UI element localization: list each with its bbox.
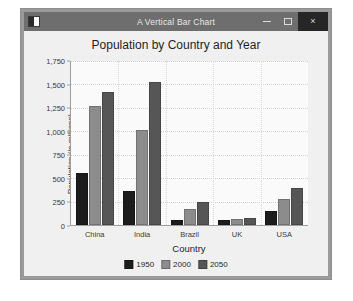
x-tick-label: USA [277, 230, 292, 239]
bar-brazil-2000 [184, 209, 196, 225]
x-tick-label: UK [232, 230, 242, 239]
y-tick-label: 0 [61, 222, 65, 231]
chart-title: Population by Country and Year [24, 38, 328, 52]
legend-item-2050[interactable]: 2050 [198, 260, 228, 269]
bar-chart: Population by Country and Year Populatio… [24, 31, 328, 276]
legend-item-1950[interactable]: 1950 [124, 260, 154, 269]
bar-usa-2050 [291, 188, 303, 225]
window-titlebar[interactable]: A Vertical Bar Chart × [24, 12, 328, 31]
y-tick-label: 750 [52, 151, 65, 160]
y-tick-label: 1,500 [46, 80, 65, 89]
y-tick-mark [67, 226, 70, 227]
window-inner: A Vertical Bar Chart × Population by [24, 12, 328, 276]
application-window: A Vertical Bar Chart × Population by [20, 8, 332, 280]
y-tick-mark [67, 131, 70, 132]
legend-label: 2050 [210, 260, 228, 269]
minimize-button[interactable] [256, 12, 277, 31]
x-tick-label: China [85, 230, 105, 239]
bar-uk-1950 [218, 220, 230, 225]
maximize-button[interactable] [277, 12, 298, 31]
legend-item-2000[interactable]: 2000 [161, 260, 191, 269]
bar-usa-1950 [265, 211, 277, 225]
y-tick-mark [67, 108, 70, 109]
bar-china-2050 [102, 92, 114, 225]
plot-area: ChinaIndiaBrazilUKUSA [70, 61, 308, 226]
bar-brazil-1950 [171, 220, 183, 225]
bar-group: Brazil [166, 61, 213, 225]
legend-swatch [124, 260, 133, 269]
bar-group: USA [261, 61, 308, 225]
minimize-icon [263, 21, 271, 22]
bar-group: China [71, 61, 118, 225]
y-tick-label: 250 [52, 198, 65, 207]
bar-uk-2050 [244, 218, 256, 225]
window-controls: × [256, 12, 328, 31]
legend-swatch [161, 260, 170, 269]
bars-layer: ChinaIndiaBrazilUKUSA [71, 61, 308, 225]
y-tick-mark [67, 61, 70, 62]
y-tick-mark [67, 84, 70, 85]
maximize-icon [284, 18, 292, 25]
chart-legend: 195020002050 [120, 258, 231, 271]
y-tick-label: 1,750 [46, 57, 65, 66]
y-tick-label: 1,000 [46, 127, 65, 136]
bar-group: India [118, 61, 165, 225]
close-icon: × [310, 17, 315, 26]
x-axis-label: Country [70, 243, 308, 254]
close-button[interactable]: × [298, 12, 328, 31]
bar-uk-2000 [231, 219, 243, 225]
bar-china-1950 [76, 173, 88, 225]
legend-swatch [198, 260, 207, 269]
x-tick-label: India [134, 230, 150, 239]
plot-wrapper: ChinaIndiaBrazilUKUSA 02505007501,0001,2… [70, 61, 308, 226]
bar-group: UK [213, 61, 260, 225]
x-tick-label: Brazil [180, 230, 199, 239]
bar-india-2050 [149, 82, 161, 225]
bar-india-1950 [123, 191, 135, 225]
legend-label: 1950 [136, 260, 154, 269]
app-window-icon [28, 16, 40, 27]
y-tick-label: 1,250 [46, 104, 65, 113]
bar-china-2000 [89, 106, 101, 225]
legend-label: 2000 [173, 260, 191, 269]
y-tick-mark [67, 178, 70, 179]
y-tick-mark [67, 155, 70, 156]
bar-brazil-2050 [197, 202, 209, 225]
y-tick-mark [67, 202, 70, 203]
bar-india-2000 [136, 130, 148, 225]
window-client-area: Population by Country and Year Populatio… [24, 31, 328, 276]
y-tick-label: 500 [52, 174, 65, 183]
screenshot-root: A Vertical Bar Chart × Population by [0, 0, 353, 301]
bar-usa-2000 [278, 199, 290, 225]
